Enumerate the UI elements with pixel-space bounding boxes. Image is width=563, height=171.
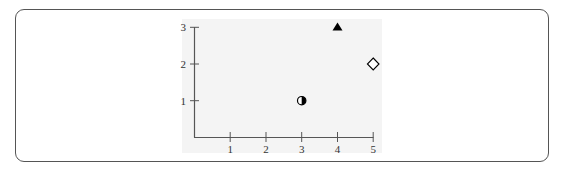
scatter-chart: 1 2 3 4 5 1 2 3	[0, 0, 563, 171]
data-point-triangle	[333, 23, 343, 31]
x-tick-label: 1	[227, 143, 233, 155]
x-tick-label: 2	[263, 143, 269, 155]
data-point-diamond	[367, 58, 379, 70]
x-tick-label: 5	[370, 143, 376, 155]
y-tick-label: 2	[181, 58, 187, 70]
filled-triangle-icon	[333, 23, 343, 31]
x-tick-label: 3	[299, 143, 305, 155]
x-tick-label: 4	[335, 143, 341, 155]
y-tick-label: 3	[181, 21, 187, 33]
x-tick-labels: 1 2 3 4 5	[227, 143, 376, 155]
y-tick-labels: 1 2 3	[181, 21, 187, 106]
hollow-diamond-icon	[367, 58, 379, 70]
data-point-half-circle	[298, 97, 306, 105]
y-tick-label: 1	[181, 95, 187, 107]
